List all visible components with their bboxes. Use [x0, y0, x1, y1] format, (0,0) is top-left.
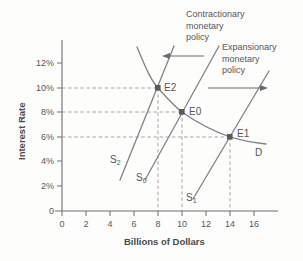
x-tick-label-8: 8 [148, 219, 168, 229]
equilibrium-label-E0: E0 [189, 106, 201, 117]
equilibrium-label-E0-base: E [189, 106, 196, 117]
equilibrium-label-E2: E2 [164, 82, 176, 93]
annotation-contractionary-line-1: Contractionary [186, 9, 245, 21]
curve-label-S2-base: S [110, 154, 117, 165]
y-tick-label-10: 10% [24, 83, 54, 93]
equilibrium-label-E0-sub: 0 [196, 106, 202, 117]
y-tick-label-6: 6% [24, 132, 54, 142]
y-tick-label-2: 2% [24, 181, 54, 191]
equilibrium-marker-E2 [155, 85, 161, 91]
y-tick-label-12: 12% [24, 58, 54, 68]
annotation-expansionary-line-1: Expansionary [222, 42, 277, 54]
x-tick-label-6: 6 [124, 219, 144, 229]
equilibrium-label-E1-base: E [237, 128, 244, 139]
curve-label-S0-base: S [136, 172, 143, 183]
annotation-contractionary: Contractionary monetary policy [186, 9, 245, 44]
equilibrium-marker-E1 [227, 134, 233, 140]
annotation-contractionary-line-2: monetary [186, 21, 245, 33]
x-tick-label-10: 10 [172, 219, 192, 229]
equilibrium-label-E1-sub: 1 [244, 128, 250, 139]
x-tick-label-0: 0 [52, 219, 72, 229]
y-tick-label-4: 4% [24, 156, 54, 166]
x-tick-label-4: 4 [100, 219, 120, 229]
x-tick-label-14: 14 [220, 219, 240, 229]
interest-rate-money-market-chart: 12% 10% 8% 6% 4% 2% 0 0 2 4 6 8 10 12 14… [0, 0, 303, 261]
curve-label-S2-sub: 2 [117, 159, 121, 166]
equilibrium-marker-E0 [179, 109, 185, 115]
contractionary-arrow [162, 53, 204, 59]
equilibrium-label-E2-base: E [164, 82, 171, 93]
curve-label-S0: S0 [136, 172, 147, 183]
y-tick-label-8: 8% [24, 107, 54, 117]
curve-label-S1-sub: 1 [193, 197, 197, 204]
x-tick-label-12: 12 [196, 219, 216, 229]
guidelines-group [62, 88, 230, 211]
expansionary-arrow [208, 85, 268, 91]
annotation-expansionary: Expansionary monetary policy [222, 42, 277, 77]
curve-label-S0-sub: 0 [143, 177, 147, 184]
x-tick-label-16: 16 [244, 219, 264, 229]
y-tick-label-0: 0 [24, 206, 54, 216]
annotation-expansionary-line-3: policy [222, 65, 277, 77]
curve-label-D: D [255, 147, 262, 158]
supply-curve-S2 [120, 46, 174, 180]
y-axis-title: Interest Rate [16, 102, 27, 160]
curve-label-S1-base: S [186, 192, 193, 203]
curve-label-S2: S2 [110, 154, 121, 165]
x-tick-label-2: 2 [76, 219, 96, 229]
equilibrium-label-E1: E1 [237, 128, 249, 139]
curve-label-S1: S1 [186, 192, 197, 203]
x-axis-title: Billions of Dollars [124, 236, 205, 247]
equilibrium-label-E2-sub: 2 [171, 82, 177, 93]
annotation-expansionary-line-2: monetary [222, 54, 277, 66]
